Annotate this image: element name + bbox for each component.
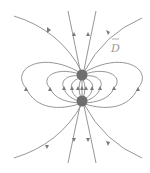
arrow-icon [86,138,90,142]
upper-charge [77,70,88,81]
arrow-icon [62,86,66,90]
label-text: D [110,42,120,55]
arrow-icon [24,87,28,91]
d-vector-label: D [110,39,120,55]
lower-charge [77,96,88,107]
arrow-icon [80,86,84,90]
arrow-icon [86,32,90,36]
arrow-icon [98,86,102,90]
direction-arrows [24,27,140,149]
arrow-icon [106,30,110,35]
arrow-icon [47,27,51,33]
arrow-icon [48,87,52,91]
arrow-icon [45,145,49,149]
field-lines-bottom [14,104,142,163]
arrow-icon [70,86,74,90]
dipole-field-diagram: D [0,0,150,173]
arrow-icon [90,86,94,90]
arrow-icon [136,87,140,91]
arrow-icon [106,141,110,146]
